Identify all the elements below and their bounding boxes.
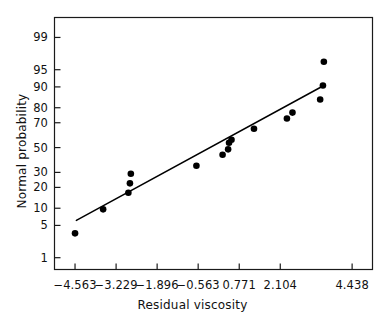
data-point-series: [72, 59, 327, 237]
reference-line: [76, 86, 324, 221]
fit-line-segment: [76, 86, 324, 221]
plot-frame: [55, 18, 373, 270]
y-axis-title: Normal probability: [15, 71, 29, 231]
data-point: [317, 96, 324, 103]
x-axis-tick-label: −3.229: [95, 278, 138, 292]
normal-probability-plot-figure: 99959080705030201051−4.563−3.229−1.896−0…: [0, 0, 385, 322]
data-point: [128, 170, 135, 177]
x-axis-tick-label: 4.438: [335, 278, 368, 292]
data-point: [225, 146, 232, 153]
axes-frame: [55, 18, 373, 270]
data-point: [320, 82, 327, 89]
y-axis-tick-label: 99: [8, 30, 48, 44]
x-axis-tick-label: 2.104: [264, 278, 297, 292]
y-axis-ticks: [55, 37, 61, 257]
data-point: [219, 151, 226, 158]
x-axis-tick-label: −1.896: [136, 278, 179, 292]
x-axis-tick-label: −4.563: [53, 278, 96, 292]
data-point: [125, 189, 132, 196]
x-axis-tick-label: 0.771: [223, 278, 256, 292]
data-point: [127, 180, 134, 187]
data-point: [193, 163, 200, 170]
plot-canvas: [0, 0, 385, 322]
y-axis-tick-label: 1: [8, 251, 48, 265]
data-point: [321, 59, 328, 66]
data-point: [72, 230, 79, 237]
x-axis-ticks: [75, 264, 352, 270]
data-point: [228, 137, 235, 144]
data-point: [251, 125, 258, 132]
x-axis-title: Residual viscosity: [0, 298, 385, 312]
data-point: [100, 206, 107, 213]
x-axis-tick-label: −0.563: [177, 278, 220, 292]
data-point: [284, 115, 291, 122]
data-point: [289, 109, 296, 116]
